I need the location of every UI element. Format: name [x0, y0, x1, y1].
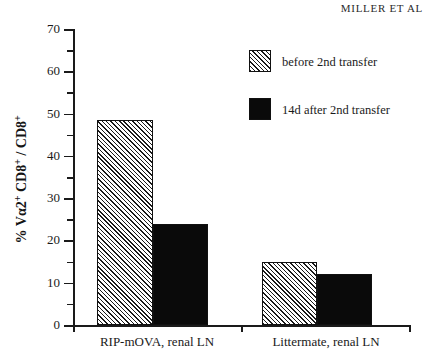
x-category-label-littermate: Littermate, renal LN [246, 334, 406, 350]
legend-label-before-2nd-transfer: before 2nd transfer [282, 55, 377, 70]
bar-14d-after-2nd-transfer-rip-mova [153, 224, 208, 326]
y-tick-minor-35 [67, 177, 73, 179]
figure-page: MILLER ET AL 0 10 20 30 40 50 60 70 [0, 0, 435, 351]
legend-swatch-before-2nd-transfer [249, 50, 271, 72]
y-tick-major-40 [64, 156, 73, 158]
y-axis-title: % Vα2+ CD8+ / CD8+ [12, 74, 31, 284]
bar-14d-after-2nd-transfer-littermate [317, 274, 372, 325]
x-tick-group-separator [241, 325, 243, 332]
y-tick-major-30 [64, 198, 73, 200]
bar-chart: 0 10 20 30 40 50 60 70 RIP [0, 0, 435, 351]
y-tick-minor-55 [67, 92, 73, 94]
y-tick-major-70 [64, 29, 73, 31]
x-category-label-rip-mova: RIP-mOVA, renal LN [77, 334, 237, 350]
y-tick-minor-65 [67, 50, 73, 52]
y-tick-label-0: 0 [20, 317, 60, 333]
y-tick-major-50 [64, 114, 73, 116]
y-tick-label-70: 70 [20, 21, 60, 37]
y-tick-major-10 [64, 283, 73, 285]
y-tick-minor-15 [67, 262, 73, 264]
y-tick-major-20 [64, 240, 73, 242]
x-tick-end [409, 325, 411, 332]
y-tick-major-60 [64, 71, 73, 73]
y-tick-major-0 [64, 325, 73, 327]
legend-swatch-14d-after-2nd-transfer [249, 98, 271, 120]
y-axis-line [73, 29, 75, 326]
y-tick-minor-5 [67, 304, 73, 306]
bar-before-2nd-transfer-rip-mova [97, 120, 153, 325]
x-tick-start [73, 325, 75, 332]
y-tick-minor-25 [67, 219, 73, 221]
y-tick-minor-45 [67, 135, 73, 137]
bar-before-2nd-transfer-littermate [262, 262, 317, 325]
legend-label-14d-after-2nd-transfer: 14d after 2nd transfer [282, 103, 390, 118]
